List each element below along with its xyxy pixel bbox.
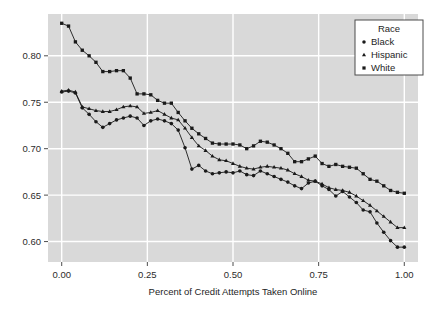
data-point-white: [142, 92, 145, 95]
data-point-white: [129, 76, 132, 79]
data-point-black: [238, 169, 242, 173]
data-point-black: [361, 208, 365, 212]
data-point-white: [389, 189, 392, 192]
data-point-black: [135, 116, 139, 120]
data-point-white: [266, 141, 269, 144]
data-point-black: [197, 164, 201, 168]
data-point-white: [355, 167, 358, 170]
data-point-white: [279, 147, 282, 150]
data-point-white: [368, 178, 371, 181]
y-axis-tick-label: 0.60: [23, 236, 42, 247]
data-point-black: [224, 170, 228, 174]
y-axis-tick-label: 0.70: [23, 143, 42, 154]
legend-marker-white: [362, 66, 365, 69]
data-point-black: [149, 119, 153, 123]
data-point-black: [204, 169, 208, 173]
data-point-white: [300, 160, 303, 163]
data-point-white: [293, 160, 296, 163]
data-point-white: [122, 69, 125, 72]
legend-label-black: Black: [371, 36, 394, 47]
data-point-white: [314, 154, 317, 157]
chart-container: 0.600.650.700.750.800.000.250.500.751.00…: [0, 0, 435, 318]
data-point-white: [334, 163, 337, 166]
data-point-black: [265, 172, 269, 176]
data-point-black: [87, 112, 91, 116]
data-point-white: [327, 165, 330, 168]
data-point-black: [183, 146, 187, 150]
data-point-white: [74, 40, 77, 43]
data-point-black: [293, 184, 297, 188]
data-point-white: [101, 70, 104, 73]
data-point-black: [170, 122, 174, 126]
data-point-black: [231, 171, 235, 175]
data-point-white: [60, 22, 63, 25]
data-point-black: [101, 125, 105, 129]
data-point-white: [362, 172, 365, 175]
data-point-black: [94, 120, 98, 124]
data-point-black: [80, 106, 84, 110]
data-point-white: [238, 143, 241, 146]
legend-label-white: White: [371, 62, 395, 73]
data-point-black: [320, 184, 324, 188]
data-point-white: [177, 111, 180, 114]
data-point-black: [156, 117, 160, 121]
data-point-black: [259, 169, 263, 173]
data-point-black: [334, 194, 338, 198]
data-point-black: [375, 221, 379, 225]
data-point-white: [204, 137, 207, 140]
data-point-black: [355, 201, 359, 205]
data-point-white: [341, 165, 344, 168]
data-point-black: [382, 230, 386, 234]
data-point-white: [348, 166, 351, 169]
data-point-black: [402, 245, 406, 249]
data-point-black: [128, 114, 132, 118]
data-point-white: [211, 141, 214, 144]
data-point-black: [327, 188, 331, 192]
data-point-white: [149, 93, 152, 96]
x-axis-tick-label: 0.00: [52, 269, 71, 280]
data-point-black: [272, 175, 276, 179]
data-point-white: [190, 127, 193, 130]
data-point-white: [224, 142, 227, 145]
data-point-black: [286, 180, 290, 184]
legend-title: Race: [378, 23, 400, 34]
data-point-white: [245, 147, 248, 150]
data-point-white: [170, 102, 173, 105]
data-point-white: [320, 162, 323, 165]
data-point-black: [396, 245, 400, 249]
data-point-white: [286, 152, 289, 155]
data-point-black: [142, 124, 146, 128]
data-point-white: [231, 142, 234, 145]
y-axis-tick-label: 0.75: [23, 97, 42, 108]
x-axis-tick-label: 0.25: [138, 269, 157, 280]
x-axis-tick-label: 1.00: [395, 269, 414, 280]
x-axis-title: Percent of Credit Attempts Taken Online: [149, 286, 318, 297]
x-axis-tick-label: 0.75: [309, 269, 328, 280]
data-point-white: [197, 132, 200, 135]
data-point-white: [272, 143, 275, 146]
data-point-black: [190, 167, 194, 171]
data-point-white: [259, 140, 262, 143]
data-point-black: [67, 89, 71, 93]
data-point-black: [279, 178, 283, 182]
data-point-white: [375, 180, 378, 183]
y-axis-tick-label: 0.80: [23, 50, 42, 61]
data-point-black: [252, 174, 256, 178]
data-point-white: [218, 142, 221, 145]
legend-label-hispanic: Hispanic: [371, 49, 408, 60]
data-point-white: [67, 24, 70, 27]
data-point-white: [115, 69, 118, 72]
data-point-white: [81, 49, 84, 52]
legend-marker-black: [362, 40, 366, 44]
data-point-white: [382, 184, 385, 187]
data-point-black: [122, 116, 126, 120]
data-point-black: [217, 171, 221, 175]
data-point-white: [252, 144, 255, 147]
data-point-black: [176, 128, 180, 132]
x-axis-tick-label: 0.50: [224, 269, 243, 280]
data-point-black: [389, 239, 393, 243]
data-point-white: [163, 102, 166, 105]
data-point-black: [245, 173, 249, 177]
data-point-white: [87, 54, 90, 57]
data-point-white: [135, 92, 138, 95]
